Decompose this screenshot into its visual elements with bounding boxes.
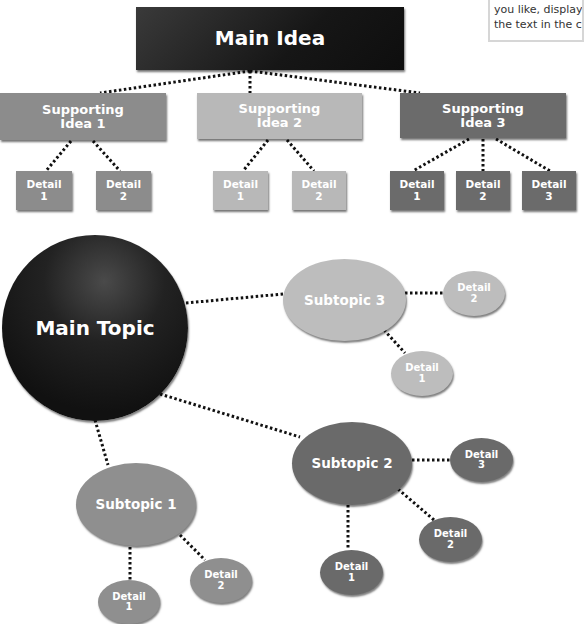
sup1-detail-2-box: Detail 2 <box>96 171 151 210</box>
supporting-idea-1-line-2: Idea 1 <box>60 117 105 131</box>
note-line-2: the text in the c <box>494 17 582 32</box>
detail-number: 1 <box>348 573 355 584</box>
detail-number: 2 <box>471 294 478 305</box>
subtopic-1-detail-1-ellipse: Detail 1 <box>98 580 160 624</box>
detail-label: Detail <box>26 179 61 190</box>
detail-number: 2 <box>447 540 454 551</box>
detail-number: 1 <box>40 191 47 202</box>
main-idea-box: Main Idea <box>136 7 404 70</box>
sup2-detail-2-box: Detail 2 <box>292 171 346 210</box>
detail-number: 1 <box>419 374 426 385</box>
detail-label: Detail <box>531 179 566 190</box>
subtopic-2-ellipse: Subtopic 2 <box>292 422 412 505</box>
sup1-detail-1-box: Detail 1 <box>16 171 72 210</box>
note-line-1: you like, display <box>494 2 582 17</box>
subtopic-2-detail-1-ellipse: Detail 1 <box>320 550 383 595</box>
supporting-idea-3-line-1: Supporting <box>442 102 524 116</box>
detail-label: Detail <box>223 179 258 190</box>
detail-label: Detail <box>457 283 490 294</box>
subtopic-3-detail-1-ellipse: Detail 1 <box>391 351 453 396</box>
detail-number: 2 <box>120 191 127 202</box>
main-topic-label: Main Topic <box>35 318 154 339</box>
detail-number: 1 <box>126 602 133 613</box>
detail-number: 1 <box>237 191 244 202</box>
detail-number: 2 <box>218 581 225 592</box>
sup3-detail-3-box: Detail 3 <box>522 171 576 210</box>
detail-number: 1 <box>413 191 420 202</box>
instruction-note: you like, display the text in the c <box>488 0 584 42</box>
detail-number: 3 <box>545 191 552 202</box>
supporting-idea-1-box: Supporting Idea 1 <box>0 93 166 140</box>
main-topic-circle: Main Topic <box>2 235 188 421</box>
detail-label: Detail <box>301 179 336 190</box>
supporting-idea-3-line-2: Idea 3 <box>460 116 505 130</box>
detail-number: 2 <box>315 191 322 202</box>
detail-label: Detail <box>335 562 368 573</box>
supporting-idea-3-box: Supporting Idea 3 <box>400 93 566 138</box>
subtopic-2-label: Subtopic 2 <box>311 456 392 470</box>
detail-number: 3 <box>478 460 485 471</box>
sup2-detail-1-box: Detail 1 <box>213 171 268 210</box>
supporting-idea-2-line-2: Idea 2 <box>257 116 302 130</box>
subtopic-2-detail-3-ellipse: Detail 3 <box>450 438 513 482</box>
supporting-idea-1-line-1: Supporting <box>42 103 124 117</box>
subtopic-2-detail-2-ellipse: Detail 2 <box>419 517 482 562</box>
supporting-idea-2-line-1: Supporting <box>239 102 321 116</box>
detail-label: Detail <box>465 179 500 190</box>
detail-label: Detail <box>405 363 438 374</box>
detail-label: Detail <box>106 179 141 190</box>
subtopic-1-label: Subtopic 1 <box>95 497 176 511</box>
detail-label: Detail <box>399 179 434 190</box>
main-idea-label: Main Idea <box>215 28 325 49</box>
subtopic-1-detail-2-ellipse: Detail 2 <box>190 558 252 603</box>
subtopic-3-detail-2-ellipse: Detail 2 <box>443 271 505 316</box>
sup3-detail-1-box: Detail 1 <box>390 171 444 210</box>
sup3-detail-2-box: Detail 2 <box>456 171 510 210</box>
detail-label: Detail <box>204 570 237 581</box>
detail-number: 2 <box>479 191 486 202</box>
subtopic-3-ellipse: Subtopic 3 <box>283 259 406 341</box>
detail-label: Detail <box>434 529 467 540</box>
subtopic-1-ellipse: Subtopic 1 <box>76 463 196 546</box>
supporting-idea-2-box: Supporting Idea 2 <box>197 93 362 139</box>
subtopic-3-label: Subtopic 3 <box>304 293 385 307</box>
